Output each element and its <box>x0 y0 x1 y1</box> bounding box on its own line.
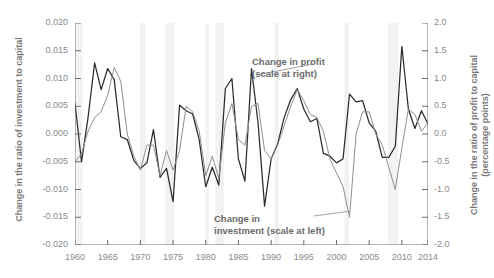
x-tick-label: 1980 <box>196 252 216 262</box>
recession-band <box>165 23 174 245</box>
y-tick-label-left: -0.005 <box>28 156 68 166</box>
x-axis-ticks: 1960196519701975198019851990199520002005… <box>0 252 494 266</box>
x-tick-label: 2000 <box>326 252 346 262</box>
y-tick-label-left: 0.010 <box>28 73 68 83</box>
annotation-investment-line1: Change in <box>214 213 325 225</box>
y-tick-label-right: -2.0 <box>434 239 474 249</box>
x-tick-label: 1970 <box>130 252 150 262</box>
recession-band <box>206 23 209 245</box>
y-tick-label-left: 0.000 <box>28 128 68 138</box>
x-tick-label: 1975 <box>163 252 183 262</box>
x-tick-label: 1960 <box>65 252 85 262</box>
annotation-profit-line1: Change in profit <box>252 56 325 68</box>
x-tick-label: 1995 <box>294 252 314 262</box>
x-tick-label: 2014 <box>418 252 438 262</box>
y-axis-left-title-text: Change in the ratio of investment to cap… <box>14 37 24 222</box>
y-tick-label-right: 1.0 <box>434 73 474 83</box>
y-axis-left-title: Change in the ratio of investment to cap… <box>14 25 25 235</box>
y-tick-label-right: 0.0 <box>434 128 474 138</box>
y-tick-label-right: 0.5 <box>434 100 474 110</box>
y-tick-label-left: -0.010 <box>28 184 68 194</box>
y-tick-label-right: -0.5 <box>434 156 474 166</box>
y-tick-label-left: 0.020 <box>28 17 68 27</box>
y-tick-label-left: 0.015 <box>28 45 68 55</box>
y-tick-label-left: -0.015 <box>28 211 68 221</box>
y-tick-label-right: 2.0 <box>434 17 474 27</box>
annotation-investment: Change in investment (scale at left) <box>214 213 325 237</box>
chart-canvas: Change in the ratio of investment to cap… <box>0 0 494 278</box>
x-tick-label: 1990 <box>261 252 281 262</box>
y-tick-label-left: 0.005 <box>28 100 68 110</box>
y-tick-label-left: -0.020 <box>28 239 68 249</box>
annotation-profit: Change in profit (scale at right) <box>252 56 325 80</box>
y-tick-label-right: -1.5 <box>434 211 474 221</box>
annotation-investment-line2: investment (scale at left) <box>214 225 325 237</box>
x-tick-label: 1965 <box>98 252 118 262</box>
y-axis-right-ticks: 2.01.51.00.50.0-0.5-1.0-1.5-2.0 <box>434 0 478 278</box>
y-tick-label-right: 1.5 <box>434 45 474 55</box>
x-tick-label: 2005 <box>359 252 379 262</box>
x-tick-label: 2010 <box>392 252 412 262</box>
annotation-profit-line2: (scale at right) <box>252 68 325 80</box>
y-tick-label-right: -1.0 <box>434 184 474 194</box>
x-tick-label: 1985 <box>228 252 248 262</box>
y-axis-right-title-line2: (percentage points) <box>480 30 491 240</box>
y-axis-left-ticks: 0.0200.0150.0100.0050.000-0.005-0.010-0.… <box>28 0 68 278</box>
recession-band <box>140 23 146 245</box>
